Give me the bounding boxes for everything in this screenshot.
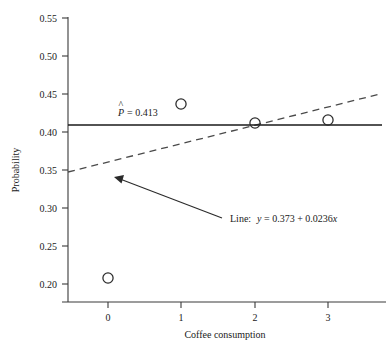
y-tick-label-1: 0.25 (40, 241, 58, 252)
reference-line-label-value: = 0.413 (127, 107, 158, 118)
y-tick-label-5: 0.45 (40, 89, 58, 100)
x-tick-label-3: 3 (326, 312, 331, 323)
y-axis-title: Probability (10, 148, 21, 192)
x-tick-label-0: 0 (106, 312, 111, 323)
y-tick-label-4: 0.40 (40, 127, 58, 138)
x-tick-label-2: 2 (253, 312, 258, 323)
x-tick-label-1: 1 (179, 312, 184, 323)
chart-container: 0.20 0.25 0.30 0.35 0.40 0.45 0.50 0.55 … (0, 0, 392, 349)
fit-line-equation-x: x (332, 213, 338, 224)
fit-line-callout-prefix: Line: (230, 213, 251, 224)
fit-line-callout-text: Line:y = 0.373 + 0.0236x (230, 213, 338, 224)
y-tick-label-3: 0.35 (40, 165, 58, 176)
x-axis-title: Coffee consumption (184, 329, 265, 340)
reference-line-hat-accent: ^ (119, 99, 124, 110)
scatter-plot: 0.20 0.25 0.30 0.35 0.40 0.45 0.50 0.55 … (0, 0, 392, 349)
y-tick-label-6: 0.50 (40, 51, 58, 62)
y-tick-label-0: 0.20 (40, 279, 58, 290)
plot-background (0, 0, 392, 349)
y-tick-label-7: 0.55 (40, 13, 58, 24)
fit-line-equation-body: = 0.373 + 0.0236 (262, 213, 333, 224)
y-tick-label-2: 0.30 (40, 203, 58, 214)
